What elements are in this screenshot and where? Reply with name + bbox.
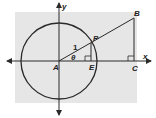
label-x: x — [142, 52, 148, 61]
label-a: A — [52, 63, 59, 72]
label-e: E — [89, 63, 95, 72]
label-theta: θ — [71, 53, 76, 62]
unit-circle-diagram: y x A P E B C 1 θ — [0, 0, 156, 118]
label-radius: 1 — [73, 43, 78, 52]
label-y: y — [61, 2, 67, 11]
label-b: B — [134, 9, 140, 18]
label-p: P — [93, 34, 99, 43]
label-c: C — [132, 64, 138, 73]
